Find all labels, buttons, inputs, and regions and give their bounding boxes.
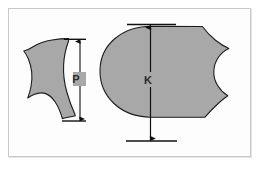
large-profile-shape <box>100 26 229 117</box>
large-profile-shape-group <box>100 26 229 117</box>
small-profile-shape-group <box>24 39 76 119</box>
p-dimension-label: P <box>72 73 79 85</box>
k-dimension-label: K <box>144 74 152 86</box>
diagram-canvas: P K <box>0 0 261 169</box>
figure-container: P K <box>0 0 261 169</box>
small-profile-shape <box>24 39 76 119</box>
